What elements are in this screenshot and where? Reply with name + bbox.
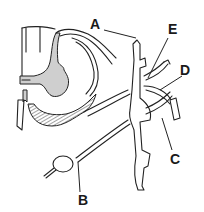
label-c: C [170, 151, 180, 167]
grey-matter [20, 33, 69, 97]
label-e: E [168, 21, 177, 37]
label-a: A [90, 16, 100, 32]
spinal-cord [20, 27, 69, 102]
sympathetic-chain [129, 40, 150, 190]
spinal-nerve-diagram: A B C D E [0, 0, 204, 212]
ramus-communicans [44, 120, 130, 178]
label-d: D [180, 62, 190, 78]
label-b: B [78, 192, 88, 208]
